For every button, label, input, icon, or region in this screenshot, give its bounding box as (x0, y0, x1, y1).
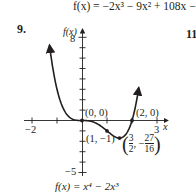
y-tick-label-neg5: −5 (65, 166, 76, 177)
label-root-2: (2, 0) (136, 107, 159, 118)
label-origin: (0, 0) (85, 107, 108, 118)
x-axis-label: x (163, 121, 168, 132)
frac-y-den: 16 (145, 144, 155, 154)
paren-open: ( (122, 133, 129, 155)
x-tick-label-neg2: −2 (25, 124, 36, 135)
paren-close: ) (154, 133, 161, 155)
label-minimum: (32, −2716) (122, 133, 161, 154)
frac-y-num: 27 (145, 133, 155, 143)
label-inflection: (1, −1) (86, 133, 115, 144)
graph-caption: f(x) = x⁴ − 2x³ (55, 180, 119, 192)
point-minimum (118, 136, 122, 140)
frac-y: 2716 (145, 133, 155, 154)
function-graph (0, 0, 196, 194)
sep: , − (133, 138, 144, 149)
point-origin (80, 119, 84, 123)
y-tick-label-8: 8 (70, 33, 75, 44)
point-root-2 (130, 119, 134, 123)
function-curve (50, 45, 139, 138)
